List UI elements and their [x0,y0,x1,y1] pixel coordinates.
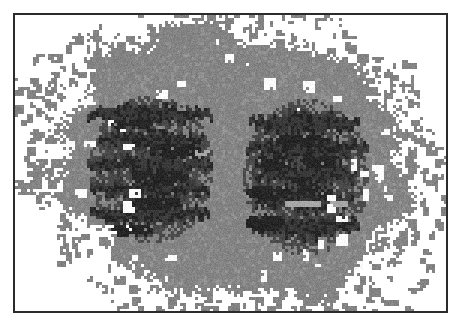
figure-root [0,0,461,326]
image-border-frame [13,13,448,313]
scan-image-canvas [15,15,446,311]
